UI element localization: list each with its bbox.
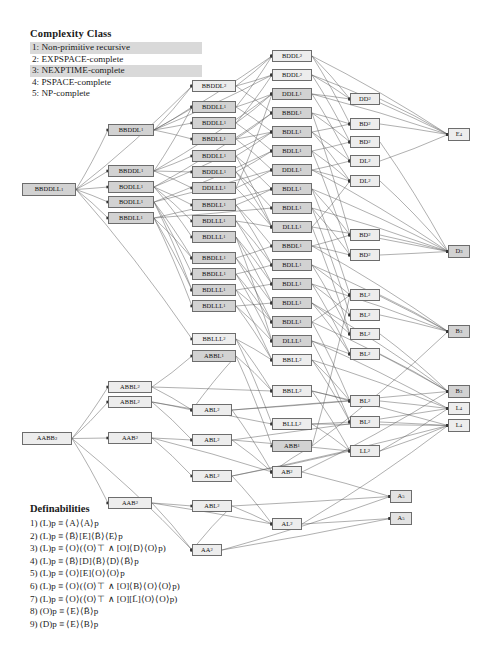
graph-node[interactable]: BDLL1 [272, 278, 312, 290]
graph-node[interactable]: AL2 [272, 518, 302, 530]
graph-edge [236, 246, 272, 258]
graph-node[interactable]: BODLL1 [108, 196, 154, 208]
graph-node[interactable]: BD2 [350, 249, 380, 261]
graph-node[interactable]: DD2 [350, 93, 380, 105]
graph-node[interactable]: BL2 [350, 328, 380, 340]
graph-node[interactable]: DLLL1 [272, 221, 312, 233]
graph-node[interactable]: BL2 [350, 309, 380, 321]
graph-node[interactable]: BL2 [350, 348, 380, 360]
graph-node-label: BL [360, 331, 368, 337]
graph-node[interactable]: BBDLL1 [108, 212, 154, 224]
graph-node[interactable]: ABB1 [272, 440, 312, 452]
graph-node[interactable]: BDLL1 [272, 316, 312, 328]
graph-node[interactable]: L4 [448, 402, 470, 415]
definability-item: 2) (L)p ≡ ⟨B̄⟩[E]⟨B̄⟩⟨E⟩p [30, 530, 245, 543]
graph-node[interactable]: BDDLL1 [192, 101, 236, 113]
graph-node[interactable]: BD2 [350, 136, 380, 148]
graph-node-label: BL [360, 312, 368, 318]
graph-node[interactable]: AB2 [272, 466, 302, 478]
graph-node[interactable]: BBDLL1 [192, 133, 236, 145]
graph-node[interactable]: BODLL1 [108, 181, 154, 193]
graph-edge [380, 235, 448, 252]
graph-node-label: BDDLL [202, 169, 224, 175]
definabilities-list: Definabilities 1) (L)p ≡ ⟨A⟩⟨A⟩p 2) (L)p… [30, 503, 245, 630]
graph-node-label: BDLLL [202, 234, 223, 240]
graph-node[interactable]: BDLL1 [272, 145, 312, 157]
graph-node[interactable]: BBDDL1 [108, 165, 154, 177]
graph-edge [236, 356, 272, 391]
graph-node[interactable]: BBDL1 [272, 240, 312, 252]
graph-node[interactable]: LL2 [350, 445, 380, 457]
graph-node[interactable]: BD2 [350, 118, 380, 130]
graph-node-label: BD [359, 121, 368, 127]
graph-node[interactable]: DLLL1 [272, 335, 312, 347]
graph-node[interactable]: A5 [390, 512, 412, 525]
graph-node[interactable]: BDLL1 [272, 259, 312, 271]
graph-node[interactable]: ABBL2 [108, 396, 152, 408]
graph-node[interactable]: BDDLL1 [192, 117, 236, 129]
graph-node[interactable]: BDLLL1 [192, 231, 236, 243]
graph-node-label: BDLL [282, 205, 299, 211]
graph-edge [312, 132, 350, 161]
graph-node[interactable]: BBDLL1 [192, 268, 236, 280]
graph-node[interactable]: ABBL2 [108, 381, 152, 393]
graph-node[interactable]: BDDL2 [272, 50, 312, 62]
definability-item: 6) (L)p ≡ ⟨O⟩(⟨O⟩⊤ ∧ [O]⟨B⟩⟨O⟩⟨O⟩p) [30, 580, 245, 593]
graph-node[interactable]: B3 [448, 325, 470, 338]
graph-edge [312, 170, 350, 181]
graph-edge [312, 284, 448, 332]
graph-node[interactable]: BBLL2 [272, 385, 312, 397]
graph-node[interactable]: ABL2 [192, 404, 232, 416]
graph-node[interactable]: ABL2 [192, 470, 232, 482]
graph-node[interactable]: BBLLL2 [192, 333, 236, 345]
graph-edge [312, 265, 350, 295]
graph-edge [312, 113, 350, 124]
graph-node[interactable]: BDLL1 [272, 297, 312, 309]
graph-node[interactable]: DL2 [350, 175, 380, 187]
graph-node[interactable]: DL2 [350, 155, 380, 167]
graph-node[interactable]: BLLL2 [272, 418, 312, 430]
graph-node[interactable]: E4 [448, 128, 470, 141]
graph-node[interactable]: ABL2 [192, 434, 232, 446]
graph-node[interactable]: BDLL1 [272, 183, 312, 195]
graph-node[interactable]: DDLLL1 [192, 182, 236, 194]
graph-node[interactable]: BDDLL1 [192, 166, 236, 178]
graph-node[interactable]: B3 [448, 385, 470, 398]
graph-node[interactable]: BDLL1 [272, 126, 312, 138]
graph-node[interactable]: DDLL1 [272, 88, 312, 100]
graph-node[interactable]: BL2 [350, 416, 380, 428]
graph-edge [312, 422, 350, 424]
graph-node[interactable]: BBDLL1 [192, 199, 236, 211]
graph-node[interactable]: BBDDL2 [192, 80, 236, 92]
graph-node-label: BL [360, 292, 368, 298]
graph-edge [312, 341, 448, 409]
graph-node[interactable]: DDLL1 [272, 164, 312, 176]
graph-edge [236, 237, 272, 284]
graph-node[interactable]: L4 [448, 419, 470, 432]
graph-node[interactable]: BD2 [350, 229, 380, 241]
graph-edge [312, 303, 448, 392]
graph-node[interactable]: BDDLL1 [192, 150, 236, 162]
graph-node[interactable]: ABBL1 [192, 350, 236, 362]
graph-edge [380, 315, 448, 332]
graph-node[interactable]: BDLLL1 [192, 300, 236, 312]
graph-node[interactable]: AAB2 [108, 432, 152, 444]
graph-edge [222, 497, 390, 551]
graph-node[interactable]: BBDLL1 [192, 252, 236, 264]
graph-node[interactable]: BL2 [350, 289, 380, 301]
graph-node[interactable]: AABB2 [22, 432, 72, 445]
graph-node-label: BBLL [282, 388, 299, 394]
graph-node[interactable]: BBDDLL1 [22, 183, 76, 196]
graph-node[interactable]: D3 [448, 245, 470, 258]
graph-edge [380, 142, 448, 252]
graph-node[interactable]: BDLLL1 [192, 215, 236, 227]
graph-node[interactable]: BDLL1 [272, 202, 312, 214]
graph-node-label: DDLL [282, 91, 299, 97]
graph-node[interactable]: BL2 [350, 395, 380, 407]
graph-node[interactable]: BDLLL1 [192, 284, 236, 296]
graph-node[interactable]: A5 [390, 490, 412, 503]
graph-node[interactable]: BBLL2 [272, 354, 312, 366]
graph-node[interactable]: BBDDL1 [108, 124, 154, 136]
graph-node[interactable]: BBDL1 [272, 107, 312, 119]
graph-node[interactable]: BDDL2 [272, 69, 312, 81]
